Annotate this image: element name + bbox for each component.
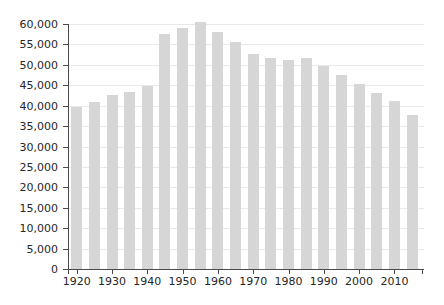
x-axis-label: 1930 bbox=[92, 276, 132, 288]
gridline bbox=[68, 85, 424, 86]
y-axis-label: 10,000 bbox=[3, 223, 58, 234]
bar bbox=[389, 101, 400, 269]
gridline bbox=[68, 24, 424, 25]
x-axis-tick bbox=[324, 270, 325, 274]
y-axis-tick bbox=[63, 187, 68, 188]
y-axis-label: 30,000 bbox=[3, 142, 58, 153]
x-axis-tick bbox=[183, 270, 184, 274]
bar bbox=[107, 95, 118, 269]
bar bbox=[354, 84, 365, 269]
bar bbox=[248, 54, 259, 269]
y-axis-tick bbox=[63, 167, 68, 168]
x-axis-tick bbox=[112, 270, 113, 274]
y-axis-label: 55,000 bbox=[3, 39, 58, 50]
y-axis-label: 50,000 bbox=[3, 60, 58, 71]
y-axis-tick bbox=[63, 65, 68, 66]
bar bbox=[265, 58, 276, 269]
bar bbox=[230, 42, 241, 269]
y-axis-label: 45,000 bbox=[3, 80, 58, 91]
bar bbox=[159, 34, 170, 269]
y-axis-label: 5,000 bbox=[3, 244, 58, 255]
y-axis-tick bbox=[63, 249, 68, 250]
x-axis-tick bbox=[218, 270, 219, 274]
bar bbox=[212, 32, 223, 269]
y-axis-tick bbox=[63, 147, 68, 148]
y-axis-tick bbox=[63, 106, 68, 107]
bar bbox=[371, 93, 382, 269]
gridline bbox=[68, 44, 424, 45]
y-axis-tick bbox=[63, 44, 68, 45]
x-axis-label: 1990 bbox=[304, 276, 344, 288]
x-axis-label: 1940 bbox=[127, 276, 167, 288]
y-axis-label: 0 bbox=[3, 264, 58, 275]
x-axis-tick bbox=[77, 270, 78, 274]
plot-area bbox=[68, 24, 424, 269]
y-axis-tick bbox=[63, 85, 68, 86]
bar bbox=[407, 115, 418, 269]
y-axis-tick bbox=[63, 208, 68, 209]
bar bbox=[283, 60, 294, 269]
bar bbox=[89, 102, 100, 269]
x-axis-label: 2010 bbox=[374, 276, 414, 288]
x-axis-label: 1980 bbox=[269, 276, 309, 288]
y-axis-label: 40,000 bbox=[3, 101, 58, 112]
y-axis-tick bbox=[63, 126, 68, 127]
x-axis-line bbox=[68, 269, 424, 270]
bar bbox=[142, 86, 153, 269]
y-axis-label: 60,000 bbox=[3, 19, 58, 30]
x-axis-label: 1920 bbox=[57, 276, 97, 288]
bar bbox=[336, 75, 347, 269]
bar bbox=[301, 58, 312, 269]
y-axis-label: 20,000 bbox=[3, 182, 58, 193]
gridline bbox=[68, 65, 424, 66]
x-axis-tick bbox=[394, 270, 395, 274]
y-axis-label: 25,000 bbox=[3, 162, 58, 173]
y-axis-label: 15,000 bbox=[3, 203, 58, 214]
population-bar-chart: 05,00010,00015,00020,00025,00030,00035,0… bbox=[0, 0, 444, 305]
y-axis-line bbox=[68, 24, 69, 269]
x-axis-tick bbox=[147, 270, 148, 274]
bar bbox=[124, 92, 135, 269]
x-axis-label: 1950 bbox=[163, 276, 203, 288]
bar bbox=[71, 107, 82, 269]
bar bbox=[195, 22, 206, 269]
x-axis-label: 1960 bbox=[198, 276, 238, 288]
y-axis-tick bbox=[63, 228, 68, 229]
x-axis-tick bbox=[68, 270, 69, 274]
y-axis-label: 35,000 bbox=[3, 121, 58, 132]
y-axis-tick bbox=[63, 24, 68, 25]
x-axis-tick bbox=[422, 270, 423, 274]
bar bbox=[318, 66, 329, 269]
x-axis-tick bbox=[289, 270, 290, 274]
bar bbox=[177, 28, 188, 269]
x-axis-tick bbox=[359, 270, 360, 274]
x-axis-tick bbox=[253, 270, 254, 274]
x-axis-label: 1970 bbox=[233, 276, 273, 288]
x-axis-label: 2000 bbox=[339, 276, 379, 288]
